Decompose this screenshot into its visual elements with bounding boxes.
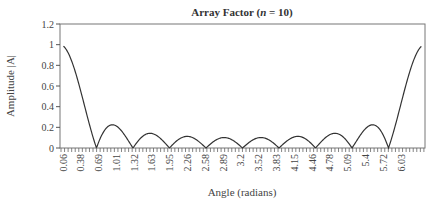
plot-border [60, 24, 425, 148]
x-tick-label: 5.4 [360, 154, 371, 167]
x-tick-label: 0.06 [58, 154, 69, 172]
x-tick-label: 5.72 [378, 154, 389, 172]
x-tick-label: 1.01 [111, 154, 122, 172]
x-tick-label: 3.52 [253, 154, 264, 172]
chart-title: Array Factor (n = 10) [191, 6, 293, 19]
x-axis: 0.060.380.691.011.321.631.952.262.582.89… [58, 148, 424, 172]
y-tick-label: 0.2 [42, 122, 55, 133]
y-tick-label: 0.8 [42, 60, 55, 71]
array-factor-curve [63, 46, 421, 148]
x-tick-label: 2.89 [218, 154, 229, 172]
array-factor-chart: Array Factor (n = 10) 00.20.40.60.811.2 … [0, 0, 447, 204]
y-tick-label: 0.4 [42, 101, 55, 112]
x-axis-label: Angle (radians) [208, 186, 277, 199]
y-tick-label: 0 [49, 143, 54, 154]
x-tick-label: 5.09 [342, 154, 353, 172]
y-tick-label: 1.2 [42, 19, 55, 30]
x-tick-label: 4.78 [324, 154, 335, 172]
x-tick-label: 2.58 [200, 154, 211, 172]
x-tick-label: 1.63 [146, 154, 157, 172]
x-tick-label: 4.15 [289, 154, 300, 172]
x-tick-label: 1.32 [129, 154, 140, 172]
y-axis: 00.20.40.60.811.2 [42, 19, 61, 154]
x-tick-label: 1.95 [164, 154, 175, 172]
y-tick-label: 1 [49, 39, 54, 50]
x-tick-label: 3.83 [271, 154, 282, 172]
x-tick-label: 0.69 [93, 154, 104, 172]
x-tick-label: 0.38 [75, 154, 86, 172]
y-tick-label: 0.6 [42, 81, 55, 92]
x-tick-label: 3.2 [235, 154, 246, 167]
x-tick-label: 6.03 [396, 154, 407, 172]
x-tick-label: 2.26 [182, 154, 193, 172]
plot-area [60, 24, 425, 148]
y-axis-label: Amplitude |A| [4, 55, 16, 117]
x-tick-label: 4.46 [307, 154, 318, 172]
